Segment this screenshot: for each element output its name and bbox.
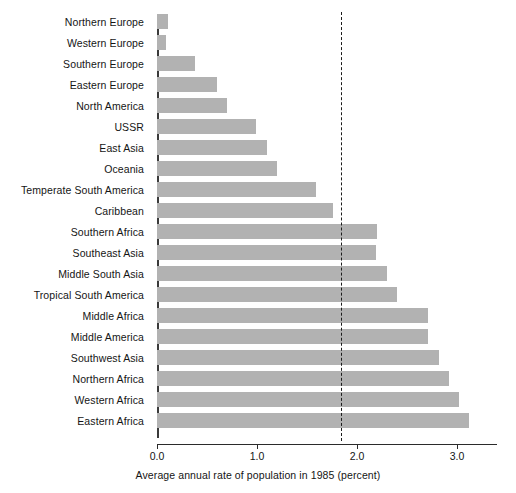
bar xyxy=(157,182,316,197)
reference-line xyxy=(341,12,342,441)
bar xyxy=(157,119,256,134)
bar xyxy=(157,371,449,386)
bar xyxy=(157,203,333,218)
category-label: Northern Europe xyxy=(65,17,144,28)
category-label: Oceania xyxy=(104,164,144,175)
x-axis-tick-label: 1.0 xyxy=(250,451,265,462)
x-axis-line xyxy=(157,444,497,445)
bar xyxy=(157,14,168,29)
category-label: Southwest Asia xyxy=(71,353,144,364)
bar xyxy=(157,308,428,323)
category-label: Southeast Asia xyxy=(73,248,144,259)
category-label: Caribbean xyxy=(95,206,144,217)
category-label: Western Europe xyxy=(67,38,144,49)
x-axis-tick xyxy=(157,444,158,449)
bar xyxy=(157,350,439,365)
category-label: Middle Africa xyxy=(83,311,144,322)
bar xyxy=(157,287,397,302)
category-label: Northern Africa xyxy=(72,374,144,385)
x-axis-tick-label: 2.0 xyxy=(350,451,365,462)
category-label: East Asia xyxy=(99,143,144,154)
x-axis-tick xyxy=(357,444,358,449)
bar xyxy=(157,161,277,176)
category-label: Southern Europe xyxy=(63,59,144,70)
category-label: Eastern Africa xyxy=(77,416,144,427)
x-axis-tick xyxy=(257,444,258,449)
category-label: Southern Africa xyxy=(71,227,144,238)
bar xyxy=(157,224,377,239)
population-growth-bar-chart: Northern EuropeWestern EuropeSouthern Eu… xyxy=(0,0,516,493)
x-axis-tick xyxy=(457,444,458,449)
category-label: Temperate South America xyxy=(21,185,144,196)
x-axis-tick-label: 3.0 xyxy=(450,451,465,462)
category-label: Western Africa xyxy=(75,395,144,406)
bar xyxy=(157,140,267,155)
category-label: Eastern Europe xyxy=(70,80,144,91)
category-label: North America xyxy=(76,101,144,112)
bar xyxy=(157,35,166,50)
bar xyxy=(157,77,217,92)
bar xyxy=(157,266,387,281)
category-label: Middle America xyxy=(71,332,144,343)
bar xyxy=(157,329,428,344)
category-label: Middle South Asia xyxy=(58,269,144,280)
x-axis-title: Average annual rate of population in 198… xyxy=(0,470,516,481)
bar xyxy=(157,56,195,71)
category-label: Tropical South America xyxy=(34,290,144,301)
category-label: USSR xyxy=(114,122,144,133)
x-axis-tick-label: 0.0 xyxy=(150,451,165,462)
bar xyxy=(157,98,227,113)
bar xyxy=(157,413,469,428)
plot-area xyxy=(157,14,497,438)
bar xyxy=(157,392,459,407)
bar xyxy=(157,245,376,260)
